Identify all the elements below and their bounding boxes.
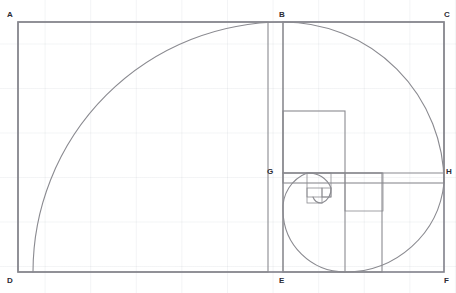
- vertex-label-e: E: [279, 277, 285, 285]
- square-BCHG: [283, 22, 444, 183]
- outer-rectangle: [18, 22, 444, 272]
- golden-rectangle-figure: [0, 0, 456, 293]
- square-4: [283, 111, 345, 173]
- vertex-label-a: A: [7, 11, 13, 19]
- fibonacci-diagram-canvas: ABCDEFGH: [0, 0, 456, 293]
- vertex-label-h: H: [446, 168, 452, 176]
- vertex-label-d: D: [7, 277, 13, 285]
- square-ABED: [18, 22, 268, 272]
- vertex-label-c: C: [444, 11, 450, 19]
- nested-squares-group: [18, 22, 444, 272]
- square-5: [345, 173, 383, 211]
- square-6: [307, 173, 331, 197]
- square-GHFE: [283, 173, 382, 272]
- vertex-label-g: G: [267, 168, 273, 176]
- vertex-label-b: B: [279, 11, 285, 19]
- vertex-label-f: F: [444, 277, 449, 285]
- internal-divider-lines: [283, 22, 444, 272]
